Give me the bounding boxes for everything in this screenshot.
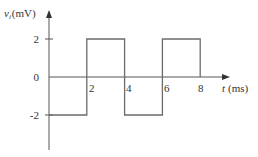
- y-tick-label: 0: [34, 71, 40, 83]
- x-tick-label: 8: [198, 82, 204, 94]
- x-tick-label: 4: [126, 82, 132, 94]
- y-tick-label: -2: [30, 109, 39, 121]
- y-axis-label: vi(mV): [4, 7, 36, 21]
- x-axis-arrow-icon: [222, 74, 230, 80]
- x-tick-label: 2: [89, 82, 95, 94]
- x-axis-label: t(ms): [222, 82, 249, 95]
- y-axis-arrow-icon: [46, 10, 52, 18]
- waveform-chart: 2 0 -2 2 4 6 8 vi(mV) t(ms): [0, 0, 258, 157]
- y-tick-label: 2: [34, 33, 40, 45]
- x-tick-label: 6: [164, 82, 170, 94]
